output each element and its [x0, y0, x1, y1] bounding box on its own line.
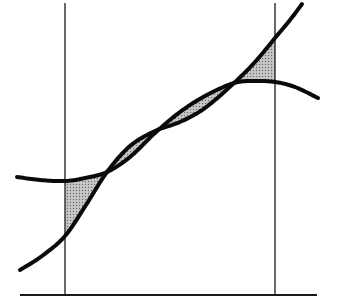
- steep-s-curve: [20, 4, 302, 270]
- area-between-curves-diagram: [0, 0, 359, 302]
- flat-hump-curve: [17, 81, 318, 181]
- shaded-regions: [65, 38, 275, 236]
